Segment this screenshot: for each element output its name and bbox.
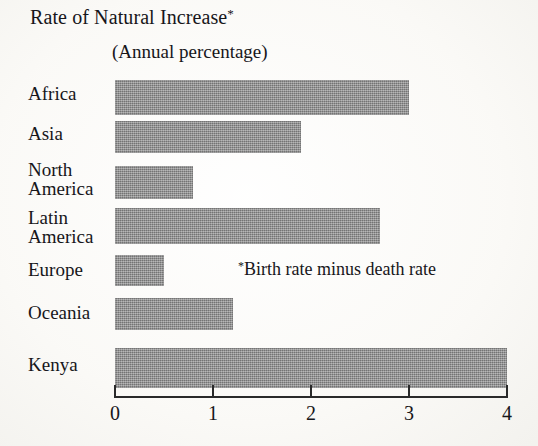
category-label-latin-america: LatinAmerica bbox=[28, 208, 128, 246]
category-label-north-america: NorthAmerica bbox=[28, 160, 128, 198]
bar-north-america bbox=[115, 166, 193, 199]
category-label-europe: Europe bbox=[28, 260, 128, 280]
category-label-kenya: Kenya bbox=[28, 355, 128, 375]
category-label-north-line1: North bbox=[28, 159, 72, 180]
plot-area: Africa Asia NorthAmerica LatinAmerica Eu… bbox=[0, 0, 538, 446]
x-axis-tick-2 bbox=[310, 385, 312, 397]
x-axis-tick-0 bbox=[114, 385, 116, 397]
bar-asia bbox=[115, 121, 301, 153]
category-label-oceania: Oceania bbox=[28, 303, 128, 323]
bar-latin-america bbox=[115, 208, 380, 244]
x-axis-label-1: 1 bbox=[208, 402, 218, 425]
chart-page: Rate of Natural Increase* (Annual percen… bbox=[0, 0, 538, 446]
x-axis-tick-4 bbox=[506, 385, 508, 397]
category-label-latin-line2: America bbox=[28, 226, 93, 247]
bar-kenya bbox=[115, 348, 507, 388]
x-axis-label-3: 3 bbox=[404, 402, 414, 425]
bar-oceania bbox=[115, 298, 233, 330]
category-label-north-line2: America bbox=[28, 178, 93, 199]
category-label-africa: Africa bbox=[28, 84, 128, 104]
category-label-asia: Asia bbox=[28, 124, 128, 144]
category-label-latin-line1: Latin bbox=[28, 207, 68, 228]
bar-europe bbox=[115, 255, 164, 286]
bar-africa bbox=[115, 80, 409, 115]
x-axis-label-2: 2 bbox=[306, 402, 316, 425]
x-axis-tick-1 bbox=[212, 385, 214, 397]
x-axis-tick-3 bbox=[408, 385, 410, 397]
x-axis-label-0: 0 bbox=[110, 402, 120, 425]
x-axis-label-4: 4 bbox=[502, 402, 512, 425]
